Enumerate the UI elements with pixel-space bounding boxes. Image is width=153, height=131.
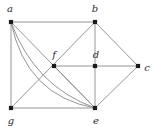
graph-canvas	[0, 0, 153, 131]
vertex-label-g: g	[8, 116, 14, 126]
vertex-b	[93, 20, 97, 24]
vertex-label-e: e	[93, 116, 99, 126]
vertex-label-d: d	[93, 50, 99, 60]
edge-f-e	[54, 66, 95, 108]
vertex-label-f: f	[52, 50, 56, 60]
vertex-label-c: c	[144, 63, 150, 73]
edge-b-c	[95, 22, 138, 66]
vertex-c	[136, 64, 140, 68]
edge-e-c	[95, 66, 138, 108]
vertex-e	[93, 106, 97, 110]
vertex-label-a: a	[7, 4, 13, 14]
graph-figure: abcdefg	[0, 0, 153, 131]
vertex-g	[9, 106, 13, 110]
vertex-label-b: b	[92, 4, 98, 14]
straight-edge-layer	[11, 22, 138, 108]
vertex-f	[52, 64, 56, 68]
vertex-a	[9, 20, 13, 24]
vertex-d	[93, 64, 97, 68]
vertex-layer	[9, 20, 140, 110]
